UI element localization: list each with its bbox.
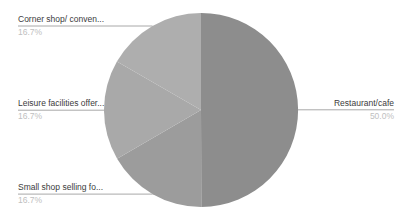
- pie-chart: Restaurant/cafe 50.0% Small shop selling…: [0, 0, 400, 223]
- pie-slice-restaurant-cafe: [201, 13, 298, 207]
- pie-svg: [0, 0, 400, 223]
